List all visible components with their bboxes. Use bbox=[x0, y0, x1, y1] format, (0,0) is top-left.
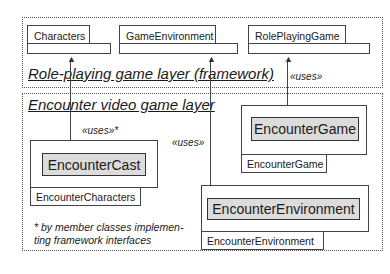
package-characters-body bbox=[27, 43, 111, 54]
characters-dependency-line bbox=[70, 59, 71, 140]
package-gameenvironment-tab: GameEnvironment bbox=[119, 25, 216, 44]
game-uses-label: «uses» bbox=[290, 71, 322, 82]
package-characters-tab: Characters bbox=[27, 25, 90, 44]
package-roleplayinggame-body bbox=[248, 43, 370, 54]
environment-dependency-line bbox=[210, 59, 211, 189]
characters-uses-label: «uses»* bbox=[82, 125, 118, 136]
framework-layer-title: Role-playing game layer (framework) bbox=[28, 65, 274, 82]
class-encounterenvironment: EncounterEnvironment bbox=[207, 198, 360, 220]
footnote-line-2: ting framework interfaces bbox=[34, 234, 194, 247]
game-arrowhead-icon: ▲ bbox=[284, 55, 293, 64]
class-encountercast: EncounterCast bbox=[42, 153, 146, 176]
encounter-layer-title: Encounter video game layer bbox=[28, 96, 215, 113]
game-dependency-line bbox=[287, 59, 288, 105]
footnote-line-1: * by member classes implemen- bbox=[34, 221, 194, 234]
package-encountercharacters-label: EncounterCharacters bbox=[30, 187, 141, 206]
package-roleplayinggame-tab: RolePlayingGame bbox=[248, 25, 346, 44]
class-encountergame: EncounterGame bbox=[251, 117, 359, 141]
environment-uses-label: «uses» bbox=[172, 137, 204, 148]
package-encountergame-label: EncounterGame bbox=[241, 154, 327, 173]
characters-arrowhead-icon: ▲ bbox=[67, 55, 76, 64]
footnote: * by member classes implemen- ting frame… bbox=[34, 221, 194, 247]
package-gameenvironment-body bbox=[119, 43, 238, 54]
environment-arrowhead-icon: ▲ bbox=[207, 55, 216, 64]
package-encounterenvironment-label: EncounterEnvironment bbox=[201, 231, 324, 250]
